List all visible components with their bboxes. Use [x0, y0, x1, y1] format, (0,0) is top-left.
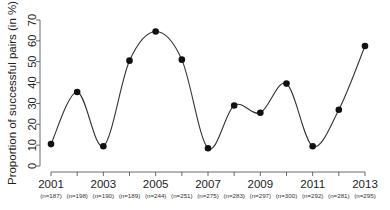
- x-tick-label: 2013: [352, 178, 378, 190]
- data-line: [51, 31, 365, 149]
- data-point: [48, 141, 55, 148]
- sample-size-label: (n=292): [302, 192, 324, 199]
- chart-canvas: 010203040506070 2001(n=187)(n=198)2003(n…: [0, 0, 390, 210]
- data-point: [126, 57, 133, 64]
- y-tick-label: 40: [26, 76, 38, 88]
- y-tick-label: 0: [26, 163, 38, 169]
- data-point: [257, 110, 264, 117]
- data-point: [309, 143, 316, 150]
- sample-size-label: (n=300): [276, 192, 298, 199]
- y-axis: 010203040506070: [26, 14, 40, 169]
- data-point: [336, 106, 343, 113]
- data-point: [100, 143, 107, 150]
- sample-size-label: (n=283): [223, 192, 245, 199]
- x-tick-label: 2011: [300, 178, 325, 190]
- y-tick-label: 20: [26, 118, 38, 130]
- sample-size-label: (n=189): [119, 192, 141, 199]
- x-axis: 2001(n=187)(n=198)2003(n=190)(n=189)2005…: [38, 172, 378, 199]
- y-tick-label: 10: [26, 139, 38, 151]
- data-points: [48, 28, 369, 151]
- x-tick-label: 2001: [38, 178, 64, 190]
- sample-size-label: (n=297): [250, 192, 272, 199]
- data-point: [205, 145, 212, 152]
- sample-size-label: (n=295): [354, 192, 376, 199]
- x-tick-label: 2009: [248, 178, 274, 190]
- data-point: [74, 89, 81, 96]
- sample-size-label: (n=198): [66, 192, 88, 199]
- line-chart: 010203040506070 2001(n=187)(n=198)2003(n…: [0, 0, 390, 210]
- sample-size-label: (n=190): [93, 192, 115, 199]
- y-tick-label: 30: [26, 97, 38, 109]
- sample-size-label: (n=187): [40, 192, 62, 199]
- y-tick-label: 70: [26, 14, 38, 26]
- sample-size-label: (n=244): [145, 192, 167, 199]
- data-point: [283, 80, 290, 87]
- data-point: [362, 43, 369, 50]
- x-tick-label: 2005: [143, 178, 169, 190]
- sample-size-label: (n=281): [328, 192, 350, 199]
- data-point: [152, 28, 159, 35]
- x-tick-label: 2003: [91, 178, 117, 190]
- y-tick-label: 60: [26, 35, 38, 47]
- data-point: [231, 102, 238, 109]
- y-tick-label: 50: [26, 56, 38, 68]
- y-axis-label: Proportion of successful pairs (in %): [6, 1, 18, 185]
- sample-size-label: (n=275): [197, 192, 219, 199]
- x-tick-label: 2007: [195, 178, 221, 190]
- sample-size-label: (n=251): [171, 192, 193, 199]
- data-point: [179, 56, 186, 63]
